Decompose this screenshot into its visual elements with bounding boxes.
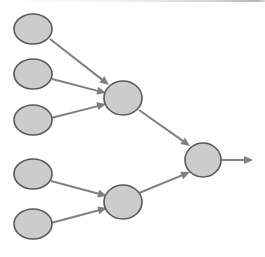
- input-node-4[interactable]: [14, 159, 52, 189]
- input-node-1[interactable]: [14, 14, 52, 44]
- hidden-node-1[interactable]: [104, 81, 142, 115]
- input-node-3[interactable]: [14, 105, 52, 135]
- output-node-1[interactable]: [185, 143, 221, 177]
- diagram-canvas: [0, 0, 265, 257]
- input-node-5[interactable]: [14, 209, 52, 239]
- hidden-node-2[interactable]: [104, 185, 142, 219]
- input-node-2[interactable]: [14, 59, 52, 89]
- network-diagram: [0, 0, 265, 257]
